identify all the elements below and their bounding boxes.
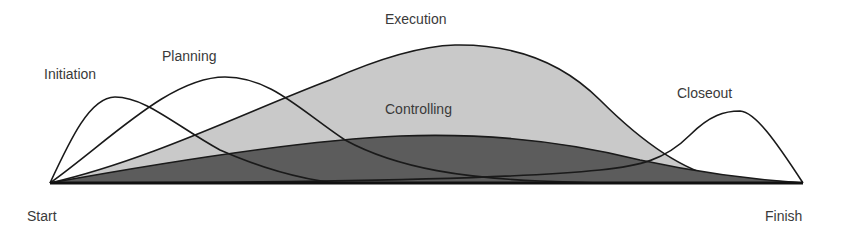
- finish-label: Finish: [765, 208, 802, 224]
- start-label: Start: [27, 208, 57, 224]
- planning-label: Planning: [162, 48, 217, 64]
- phase-diagram: [0, 0, 847, 239]
- controlling-label: Controlling: [385, 101, 452, 117]
- execution-label: Execution: [385, 11, 446, 27]
- initiation-label: Initiation: [44, 66, 96, 82]
- closeout-label: Closeout: [677, 85, 732, 101]
